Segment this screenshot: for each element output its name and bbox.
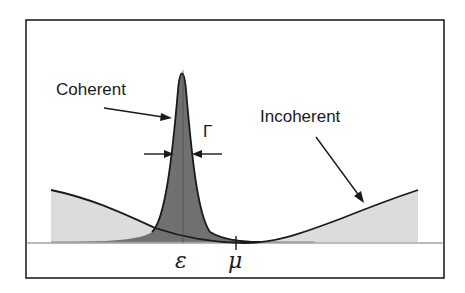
mu-label: μ [228,248,242,273]
coherent-label: Coherent [56,80,126,100]
incoherent-label: Incoherent [260,107,340,127]
epsilon-label: ε [175,248,187,273]
gamma-label: Γ [203,122,212,142]
